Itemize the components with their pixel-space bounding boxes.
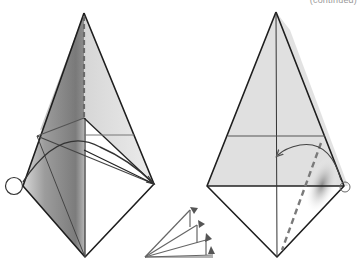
fan-fold-symbol-icon xyxy=(145,207,215,257)
right-fold-diagram xyxy=(207,12,350,257)
left-corner-circle-icon xyxy=(6,178,23,195)
left-fold-diagram xyxy=(6,13,155,257)
origami-diagram-canvas xyxy=(0,0,359,271)
